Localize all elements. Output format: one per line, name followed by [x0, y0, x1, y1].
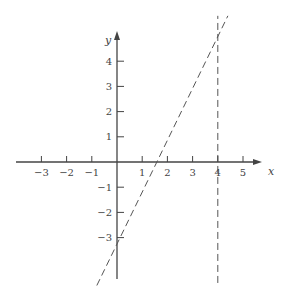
- x-tick-label: 2: [164, 167, 170, 178]
- x-tick-label: −2: [59, 167, 74, 178]
- y-tick-label: −3: [97, 232, 112, 243]
- y-tick-label: 2: [106, 106, 112, 117]
- y-tick-label: −2: [97, 207, 112, 218]
- y-tick-label: 1: [106, 131, 112, 142]
- y-tick-label: 4: [106, 56, 112, 67]
- y-tick-label: 3: [106, 81, 112, 92]
- y-axis-label: y: [104, 34, 112, 47]
- y-axis-arrow-icon: [114, 31, 120, 40]
- x-axis-label: x: [268, 165, 275, 178]
- x-tick-label: 5: [240, 167, 246, 178]
- x-tick-label: 3: [189, 167, 195, 178]
- axes: xy: [16, 31, 275, 279]
- y-tick-label: −1: [97, 182, 112, 193]
- x-tick-label: −1: [84, 167, 99, 178]
- tick-marks: [41, 61, 243, 237]
- x-tick-label: 4: [215, 167, 221, 178]
- x-tick-label: 1: [139, 167, 145, 178]
- tick-labels: −3−2−1123454321−1−2−3: [34, 56, 246, 243]
- coordinate-plot: xy −3−2−1123454321−1−2−3: [0, 0, 281, 296]
- x-axis-arrow-icon: [253, 159, 262, 165]
- x-tick-label: −3: [34, 167, 49, 178]
